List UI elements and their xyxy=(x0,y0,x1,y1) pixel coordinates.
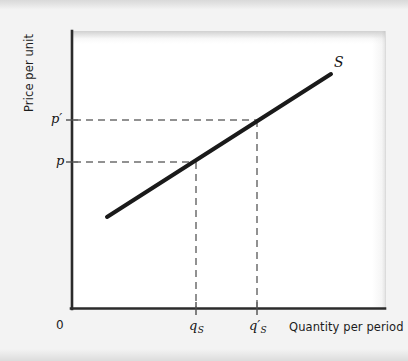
y-tick-label-price-low: p xyxy=(56,153,64,168)
supply-curve-line xyxy=(107,74,331,217)
supply-curve-figure: Price per unit Quantity per period 0 p′ … xyxy=(0,0,408,361)
price-high-prime-mark: ′ xyxy=(59,111,62,126)
quantity-low-subscript: S xyxy=(197,325,203,335)
y-axis-title: Price per unit xyxy=(22,34,36,112)
y-tick-label-price-high: p′ xyxy=(51,111,62,126)
origin-label: 0 xyxy=(56,318,64,332)
quantity-high-subscript: S xyxy=(260,325,266,335)
price-low-symbol: p xyxy=(56,153,64,168)
chart-vector-layer xyxy=(0,0,408,361)
x-tick-label-quantity-low: qS xyxy=(189,318,204,335)
supply-curve-label: S xyxy=(334,54,344,70)
x-tick-label-quantity-high: q′S xyxy=(249,318,267,335)
x-axis-title: Quantity per period xyxy=(289,320,404,334)
